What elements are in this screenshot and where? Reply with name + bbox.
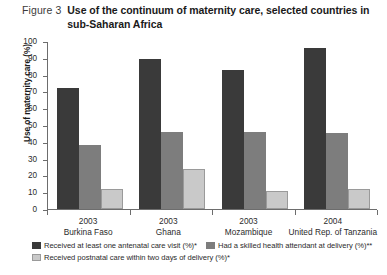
legend-swatch-icon — [32, 242, 41, 249]
y-tick-mark — [43, 176, 47, 177]
chart-legend: Received at least one antenatal care vis… — [32, 239, 382, 263]
legend-label: Received postnatal care within two days … — [44, 253, 230, 262]
category-separator — [295, 210, 296, 215]
y-tick-mark — [43, 59, 47, 60]
y-tick-label: 40 — [0, 138, 37, 147]
x-axis-category: 2003Mozambique — [208, 216, 288, 237]
category-year: 2003 — [208, 216, 288, 227]
figure-title-block: Figure 3 Use of the continuum of materni… — [22, 4, 380, 31]
bar — [348, 189, 370, 209]
legend-label: Had a skilled health attendant at delive… — [218, 241, 372, 250]
bar-group — [295, 41, 377, 209]
category-country: Mozambique — [208, 227, 288, 238]
category-separator — [47, 210, 48, 215]
bar — [326, 133, 348, 209]
y-tick-mark — [43, 193, 47, 194]
legend-item-antenatal: Received at least one antenatal care vis… — [32, 241, 197, 250]
y-tick-label: 80 — [0, 71, 37, 80]
bar — [244, 132, 266, 209]
y-tick-mark — [43, 126, 47, 127]
plot-area: 0102030405060708090100 — [47, 42, 377, 210]
chart-container: Use of maternity care (%) 01020304050607… — [0, 36, 387, 236]
y-tick-label: 70 — [0, 87, 37, 96]
y-tick-label: 60 — [0, 104, 37, 113]
legend-row-bottom: Received postnatal care within two days … — [32, 251, 382, 263]
category-country: Burkina Faso — [48, 227, 128, 238]
legend-swatch-icon — [206, 242, 215, 249]
x-axis-category: 2003Burkina Faso — [48, 216, 128, 237]
y-tick-label: 90 — [0, 54, 37, 63]
y-tick-label: 100 — [0, 37, 37, 46]
y-tick-mark — [43, 42, 47, 43]
y-tick-label: 50 — [0, 121, 37, 130]
y-tick-label: 10 — [0, 188, 37, 197]
y-tick-label: 0 — [0, 205, 37, 214]
bar — [183, 169, 205, 209]
bar — [139, 59, 161, 209]
x-axis-categories: 2003Burkina Faso2003Ghana2003Mozambique2… — [48, 216, 377, 237]
legend-row-top: Received at least one antenatal care vis… — [32, 239, 382, 251]
bar — [266, 191, 288, 209]
bar-groups — [48, 41, 377, 209]
legend-item-postnatal: Received postnatal care within two days … — [32, 253, 230, 262]
bar — [304, 48, 326, 209]
y-tick-mark — [43, 160, 47, 161]
bar — [57, 88, 79, 209]
y-tick-label: 30 — [0, 155, 37, 164]
bar — [79, 145, 101, 209]
y-tick-mark — [43, 92, 47, 93]
legend-item-skilled-attendant: Had a skilled health attendant at delive… — [206, 241, 372, 250]
y-tick-mark — [43, 109, 47, 110]
bar-group — [130, 41, 212, 209]
y-tick-label: 20 — [0, 171, 37, 180]
page-title: Use of the continuum of maternity care, … — [67, 4, 380, 31]
bar-group — [48, 41, 130, 209]
x-axis-category: 2004United Rep. of Tanzania — [289, 216, 377, 237]
y-tick-mark — [43, 143, 47, 144]
category-country: Ghana — [128, 227, 208, 238]
bar — [222, 70, 244, 209]
category-year: 2003 — [48, 216, 128, 227]
legend-swatch-icon — [32, 254, 41, 261]
legend-label: Received at least one antenatal care vis… — [44, 241, 197, 250]
x-axis-category: 2003Ghana — [128, 216, 208, 237]
bar — [101, 189, 123, 209]
category-separator — [130, 210, 131, 215]
bar — [161, 132, 183, 209]
y-tick-mark — [43, 76, 47, 77]
category-country: United Rep. of Tanzania — [289, 227, 377, 238]
category-year: 2003 — [128, 216, 208, 227]
category-separator — [377, 210, 378, 215]
category-separator — [212, 210, 213, 215]
bar-group — [213, 41, 295, 209]
category-year: 2004 — [289, 216, 377, 227]
